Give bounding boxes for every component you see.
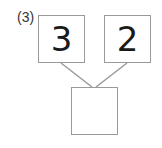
left-connector-line [61, 63, 92, 87]
right-connector-line [96, 63, 127, 87]
part-box-right: 2 [104, 15, 151, 63]
whole-answer-box[interactable] [71, 87, 118, 135]
problem-number: (3) [17, 9, 34, 25]
part-box-left: 3 [38, 15, 85, 63]
